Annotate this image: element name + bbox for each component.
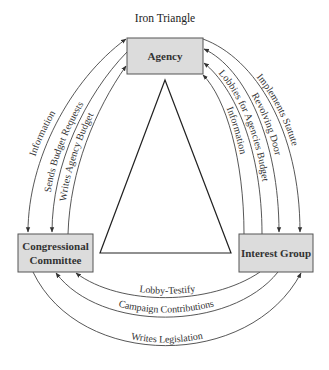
edge-implements-statute xyxy=(203,39,300,232)
congressional-committee-label-line2: Committee xyxy=(30,254,82,266)
label-lobby-testify: Lobby-Testify xyxy=(139,283,196,296)
label-campaign-contributions: Campaign Contributions xyxy=(118,297,215,314)
iron-triangle-diagram: Iron Triangle Agency Congressional Commi… xyxy=(0,0,329,370)
label-writes-legislation: Writes Legislation xyxy=(130,330,203,345)
agency-label: Agency xyxy=(148,50,183,62)
congressional-committee-label-line1: Congressional xyxy=(22,240,88,252)
node-agency: Agency xyxy=(127,38,203,74)
node-congressional-committee: Congressional Committee xyxy=(18,234,93,272)
center-triangle xyxy=(100,80,231,253)
interest-group-label: Interest Group xyxy=(241,247,311,259)
node-interest-group: Interest Group xyxy=(239,234,313,272)
diagram-title: Iron Triangle xyxy=(135,12,195,25)
